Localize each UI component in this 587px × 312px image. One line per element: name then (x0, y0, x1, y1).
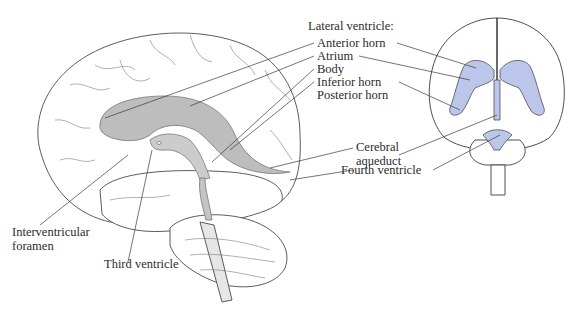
label-atrium: Atrium (317, 49, 353, 63)
label-body: Body (317, 62, 344, 76)
label-interventricular-line2: foramen (12, 239, 54, 253)
label-cerebral-aqueduct-line1: Cerebral (356, 140, 399, 154)
label-inferior-horn: Inferior horn (317, 75, 381, 89)
ventricle-diagram: Lateral ventricle: Anterior horn Atrium … (0, 0, 587, 312)
label-posterior-horn: Posterior horn (317, 88, 388, 102)
label-fourth-ventricle: Fourth ventricle (341, 163, 421, 177)
label-interventricular-line1: Interventricular (12, 225, 90, 239)
label-anterior-horn: Anterior horn (317, 36, 385, 50)
label-lateral-ventricle: Lateral ventricle: (308, 19, 394, 33)
diagram-artwork (0, 0, 587, 312)
label-third-ventricle: Third ventricle (104, 257, 179, 271)
